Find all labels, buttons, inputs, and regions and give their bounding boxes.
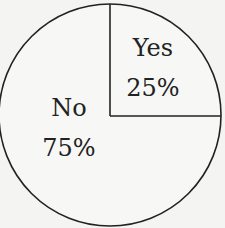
pie-chart: Yes 25% No 75% [0,0,225,228]
slice-yes-percent: 25% [126,74,179,102]
slice-no-label: No [51,94,86,122]
slice-yes-label: Yes [132,34,173,62]
slice-no-percent: 75% [42,134,95,162]
